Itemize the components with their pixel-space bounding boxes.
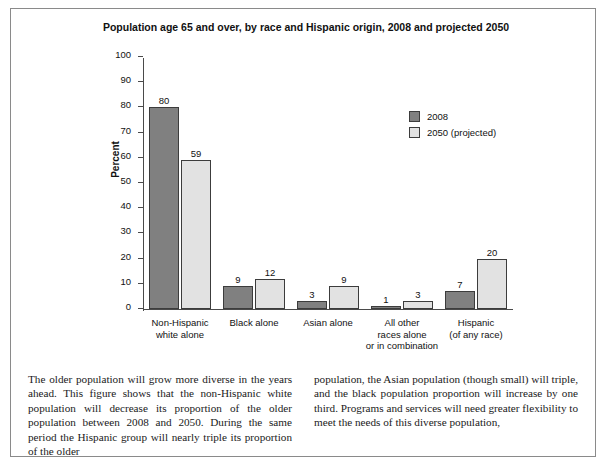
y-axis-tick-label: 60: [120, 150, 131, 161]
bar: 7: [445, 291, 475, 309]
y-axis-tick: 30: [138, 232, 143, 233]
y-axis-tick-label: 40: [120, 200, 131, 211]
y-axis-line: [143, 58, 144, 311]
bar: 3: [403, 301, 433, 309]
bar: 12: [255, 279, 285, 309]
bar-value-label: 3: [309, 289, 314, 300]
y-axis-tick-label: 100: [115, 49, 131, 60]
bar: 20: [477, 259, 507, 309]
y-axis-tick-label: 0: [126, 301, 131, 312]
y-axis-tick: 90: [138, 81, 143, 82]
y-axis-tick: 10: [138, 283, 143, 284]
y-axis-tick-label: 50: [120, 175, 131, 186]
bar-value-label: 20: [487, 247, 498, 258]
bar-value-label: 9: [235, 274, 240, 285]
bar: 1: [371, 306, 401, 309]
bar-value-label: 12: [265, 267, 276, 278]
bar-value-label: 9: [341, 274, 346, 285]
bar: 9: [223, 286, 253, 309]
x-axis-line: [143, 309, 513, 310]
caption-column-right: population, the Asian population (though…: [314, 372, 578, 457]
y-axis-tick-label: 70: [120, 125, 131, 136]
legend-swatch: [409, 127, 420, 138]
chart-legend: 20082050 (projected): [409, 109, 496, 141]
legend-label: 2008: [427, 111, 448, 122]
y-axis-title: Percent: [110, 141, 121, 178]
caption-block: The older population will grow more dive…: [11, 372, 595, 457]
bar: 80: [149, 107, 179, 309]
bar-value-label: 3: [415, 289, 420, 300]
plot-area: Percent 0102030405060708090100 805991239…: [143, 58, 513, 310]
legend-item: 2008: [409, 109, 496, 123]
y-axis-tick: 50: [138, 182, 143, 183]
y-axis-tick-label: 30: [120, 225, 131, 236]
y-axis-tick: 80: [138, 106, 143, 107]
bar-value-label: 7: [457, 279, 462, 290]
figure-container: Population age 65 and over, by race and …: [10, 8, 596, 457]
bar: 3: [297, 301, 327, 309]
y-axis-tick-label: 20: [120, 251, 131, 262]
bar-value-label: 59: [191, 148, 202, 159]
bar: 9: [329, 286, 359, 309]
y-axis-tick: 0: [138, 308, 143, 309]
x-axis-category-label: Hispanic (of any race): [433, 311, 519, 340]
y-axis-tick: 100: [138, 56, 143, 57]
y-axis-tick: 60: [138, 157, 143, 158]
y-axis-tick-label: 90: [120, 74, 131, 85]
y-axis-tick-label: 10: [120, 276, 131, 287]
y-axis-tick: 40: [138, 207, 143, 208]
bar-value-label: 80: [159, 95, 170, 106]
legend-label: 2050 (projected): [427, 127, 496, 138]
y-axis-tick-label: 80: [120, 99, 131, 110]
chart-title: Population age 65 and over, by race and …: [71, 21, 541, 34]
legend-item: 2050 (projected): [409, 125, 496, 139]
chart-panel: Population age 65 and over, by race and …: [11, 9, 595, 364]
y-axis-tick: 20: [138, 258, 143, 259]
caption-column-left: The older population will grow more dive…: [28, 372, 292, 457]
bar-value-label: 1: [383, 294, 388, 305]
bar: 59: [181, 160, 211, 309]
y-axis-tick: 70: [138, 132, 143, 133]
legend-swatch: [409, 111, 420, 122]
